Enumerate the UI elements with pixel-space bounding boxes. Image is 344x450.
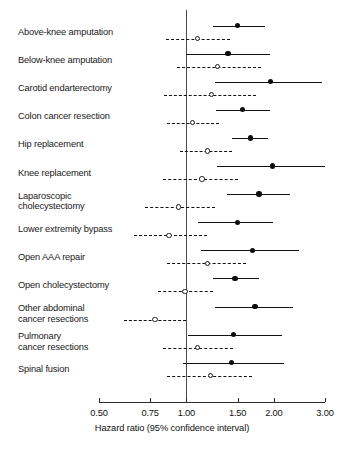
row-label: Spinal fusion (18, 364, 69, 375)
row-label: Hip replacement (18, 139, 83, 150)
row-label: Laparoscopic cholecystectomy (18, 191, 84, 212)
x-axis-tick-label: 1.50 (218, 408, 258, 418)
point-marker-filled (240, 107, 245, 112)
row-label: Other abdominal cancer resections (18, 303, 88, 324)
x-axis-tick (99, 398, 100, 402)
x-axis-tick-label: 0.75 (130, 408, 170, 418)
point-marker-filled (229, 360, 234, 365)
forest-plot: Above-knee amputationBelow-knee amputati… (0, 0, 344, 450)
point-marker-filled (256, 191, 261, 196)
point-marker-open (208, 373, 213, 378)
point-marker-open (205, 261, 210, 266)
point-marker-filled (225, 51, 230, 56)
x-axis-tick (186, 398, 187, 402)
row-label: Open AAA repair (18, 252, 85, 263)
row-label: Colon cancer resection (18, 111, 110, 122)
point-marker-open (190, 120, 195, 125)
row-label: Pulmonary cancer resections (18, 331, 88, 352)
x-axis-tick-label: 1.00 (166, 408, 206, 418)
point-marker-open (215, 64, 220, 69)
row-label: Below-knee amputation (18, 55, 112, 66)
x-axis-tick-label: 0.50 (79, 408, 119, 418)
point-marker-open (195, 345, 200, 350)
point-marker-open (209, 92, 214, 97)
reference-line (186, 10, 187, 402)
x-axis-line (99, 402, 325, 403)
point-marker-filled (231, 332, 236, 337)
point-marker-filled (250, 248, 255, 253)
x-axis-tick-label: 2.00 (254, 408, 294, 418)
point-marker-filled (235, 220, 240, 225)
point-marker-filled (248, 135, 253, 140)
point-marker-open (199, 176, 204, 181)
point-marker-filled (270, 163, 275, 168)
point-marker-open (176, 204, 181, 209)
row-label: Carotid endarterectomy (18, 83, 112, 94)
point-marker-filled (235, 23, 240, 28)
row-label: Lower extremity bypass (18, 224, 112, 235)
x-axis-tick-label: 3.00 (305, 408, 344, 418)
point-marker-filled (232, 276, 237, 281)
point-marker-filled (252, 304, 257, 309)
point-marker-open (152, 317, 157, 322)
point-marker-open (166, 233, 171, 238)
x-axis-tick (325, 398, 326, 402)
row-label: Knee replacement (18, 168, 91, 179)
point-marker-open (182, 289, 187, 294)
point-marker-filled (268, 79, 273, 84)
x-axis-tick (238, 398, 239, 402)
x-axis-tick (274, 398, 275, 402)
x-axis-tick (150, 398, 151, 402)
row-label: Open cholecystectomy (18, 280, 109, 291)
row-label: Above-knee amputation (18, 27, 113, 38)
point-marker-open (205, 148, 210, 153)
point-marker-open (195, 36, 200, 41)
x-axis-title: Hazard ratio (95% confidence interval) (0, 423, 344, 433)
